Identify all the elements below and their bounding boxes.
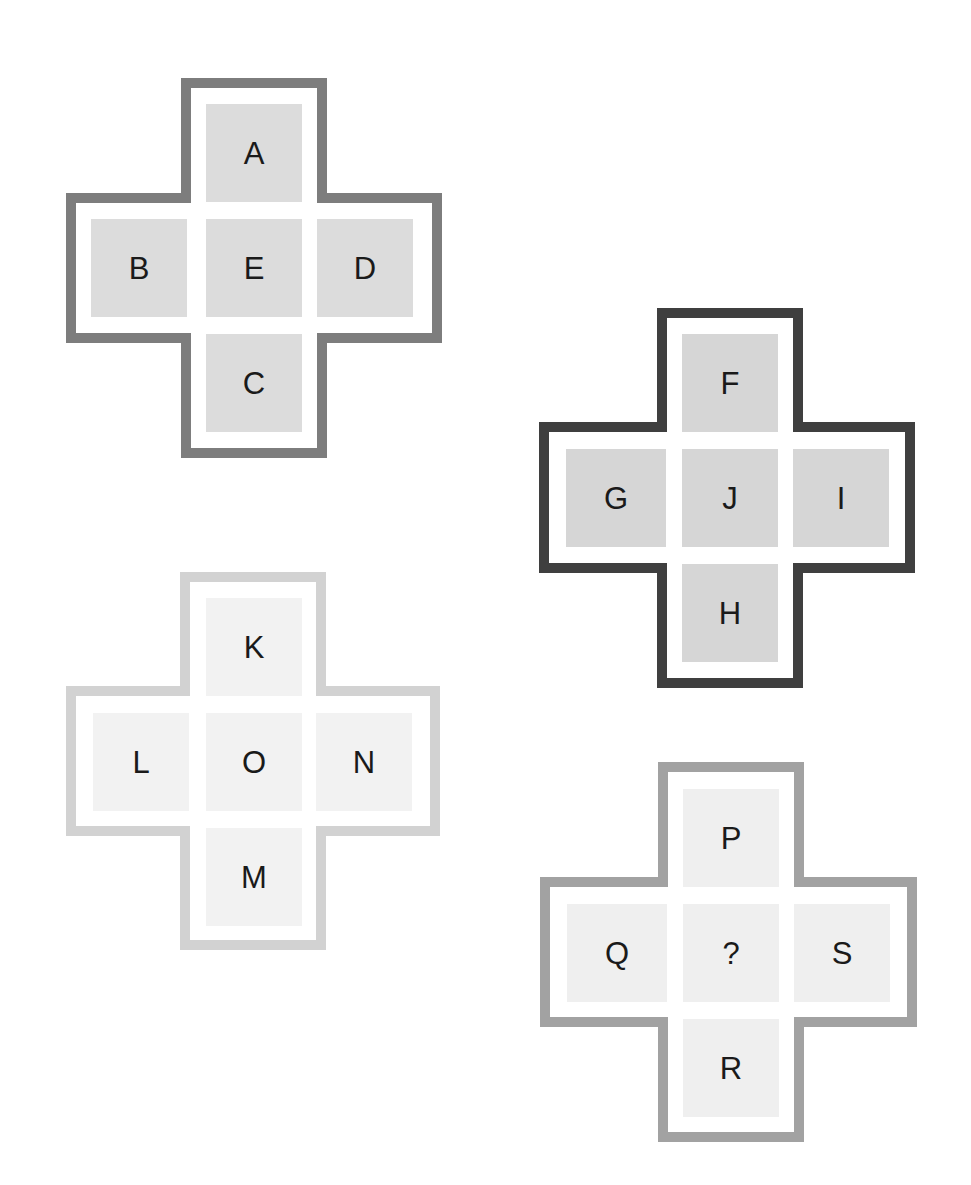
cross-2-cell-center: J — [682, 449, 778, 547]
cross-1: A B E D C — [66, 78, 442, 460]
cross-4-cell-left: Q — [567, 904, 667, 1002]
cross-3-cell-top: K — [206, 598, 302, 696]
cross-2-cell-right: I — [793, 449, 889, 547]
cross-4: P Q ? S R — [540, 762, 916, 1144]
cross-2-cell-top: F — [682, 334, 778, 432]
cross-4-cell-center: ? — [683, 904, 779, 1002]
cross-3: K L O N M — [66, 572, 442, 954]
cross-4-cell-top: P — [683, 789, 779, 887]
cross-3-cell-left: L — [93, 713, 189, 811]
cross-1-cell-bottom: C — [206, 334, 302, 432]
cross-1-cell-right: D — [317, 219, 413, 317]
cross-3-cell-center: O — [206, 713, 302, 811]
cross-1-cell-left: B — [91, 219, 187, 317]
cross-1-cell-center: E — [206, 219, 302, 317]
cross-4-cell-bottom: R — [683, 1019, 779, 1117]
cross-3-cell-right: N — [316, 713, 412, 811]
cross-2-cell-bottom: H — [682, 564, 778, 662]
cross-4-cell-right: S — [794, 904, 890, 1002]
cross-2: F G J I H — [539, 308, 915, 690]
cross-2-cell-left: G — [566, 449, 666, 547]
cross-1-cell-top: A — [206, 104, 302, 202]
cross-3-cell-bottom: M — [206, 828, 302, 926]
